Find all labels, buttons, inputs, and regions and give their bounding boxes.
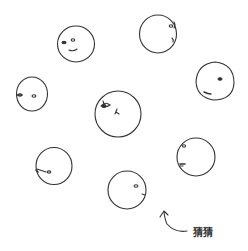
sketch-canvas	[0, 0, 248, 251]
face-lower-left	[36, 148, 72, 185]
face-bottom	[108, 171, 146, 209]
face-middle-left	[17, 77, 48, 111]
face-top-left	[58, 26, 95, 62]
annotation-label: 猜猜	[193, 224, 213, 239]
face-top-right	[140, 15, 177, 53]
face-center	[95, 91, 141, 137]
face-lower-right	[177, 138, 215, 176]
face-middle-right	[196, 62, 234, 100]
curved-arrow-icon	[160, 211, 187, 231]
